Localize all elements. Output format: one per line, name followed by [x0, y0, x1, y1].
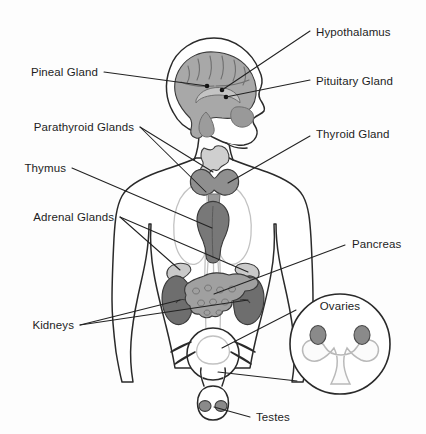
label-kidneys: Kidneys: [32, 319, 74, 331]
label-testes: Testes: [256, 411, 290, 423]
label-pineal-gland: Pineal Gland: [31, 66, 98, 78]
diagram-canvas: Hypothalamus Pituitary Gland Thyroid Gla…: [0, 0, 426, 434]
cerebellum: [231, 107, 254, 127]
bladder-outline: [197, 336, 230, 364]
label-pancreas: Pancreas: [352, 238, 402, 250]
label-adrenal-glands: Adrenal Glands: [33, 211, 114, 223]
label-thymus: Thymus: [25, 162, 67, 174]
label-parathyroid-glands: Parathyroid Glands: [34, 121, 134, 133]
right-ovary-shape: [354, 326, 370, 345]
endocrine-system-diagram: Hypothalamus Pituitary Gland Thyroid Gla…: [0, 0, 426, 434]
left-testis-shape: [199, 401, 211, 412]
label-pituitary-gland: Pituitary Gland: [316, 75, 393, 87]
label-hypothalamus: Hypothalamus: [316, 26, 391, 38]
left-ovary-shape: [310, 326, 326, 345]
label-thyroid-gland: Thyroid Gland: [316, 128, 390, 140]
label-ovaries: Ovaries: [320, 300, 360, 312]
